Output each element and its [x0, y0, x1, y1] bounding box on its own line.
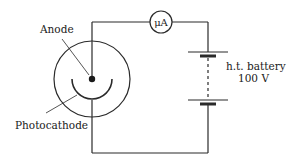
- battery-label: h.t. battery: [226, 60, 286, 72]
- anode-label: Anode: [39, 23, 74, 35]
- photocathode-leader-line: [46, 95, 77, 113]
- ammeter-label: μA: [154, 17, 168, 28]
- circuit-svg: Anode Photocathode h.t. battery 100 V μA: [0, 0, 295, 164]
- battery-voltage-label: 100 V: [238, 72, 269, 84]
- anode-dot: [89, 76, 95, 82]
- photocell-circuit-diagram: Anode Photocathode h.t. battery 100 V μA: [0, 0, 295, 164]
- photocathode-label: Photocathode: [15, 119, 88, 131]
